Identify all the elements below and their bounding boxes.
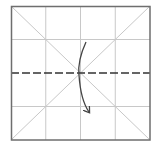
- origami-fold-diagram: [0, 0, 158, 148]
